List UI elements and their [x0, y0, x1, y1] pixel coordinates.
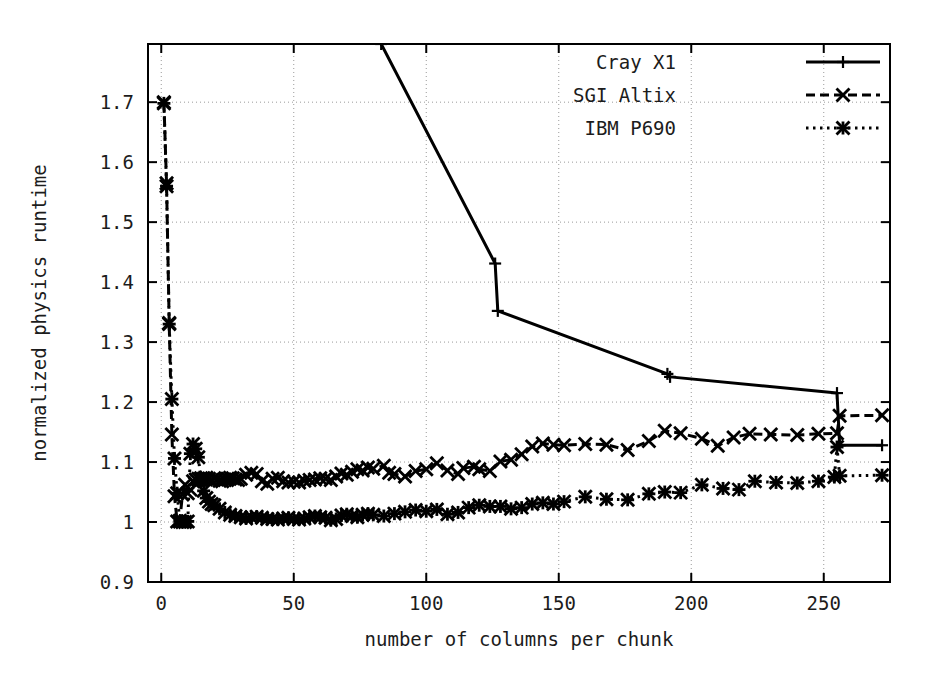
x-tick-label: 0: [156, 592, 167, 614]
data-point-marker: [833, 469, 846, 482]
y-tick-label: 1.2: [100, 391, 134, 413]
data-point-marker: [770, 476, 783, 489]
data-point-marker: [171, 487, 184, 500]
data-point-marker: [160, 180, 173, 193]
x-tick-label: 250: [807, 592, 841, 614]
legend-label-ibm-p690: IBM P690: [584, 117, 676, 139]
data-point-marker: [732, 483, 745, 496]
chart-background: [0, 0, 932, 691]
data-point-marker: [558, 495, 571, 508]
y-tick-label: 1.4: [100, 271, 134, 293]
chart-figure: 0.911.11.21.31.41.51.61.7050100150200250…: [0, 0, 932, 691]
x-tick-label: 100: [409, 592, 443, 614]
data-point-marker: [642, 487, 655, 500]
y-tick-label: 0.9: [100, 571, 134, 593]
data-point-marker: [168, 452, 181, 465]
data-point-marker: [658, 486, 671, 499]
data-point-marker: [791, 477, 804, 490]
x-tick-label: 200: [674, 592, 708, 614]
data-point-marker: [579, 490, 592, 503]
data-point-marker: [163, 318, 176, 331]
data-point-marker: [157, 97, 170, 110]
data-point-marker: [181, 515, 194, 528]
data-point-marker: [674, 486, 687, 499]
legend-label-sgi-altix: SGI Altix: [573, 84, 676, 106]
y-tick-label: 1: [123, 511, 134, 533]
legend-label-cray-x1: Cray X1: [596, 51, 676, 73]
y-tick-label: 1.3: [100, 331, 134, 353]
data-point-marker: [812, 475, 825, 488]
y-tick-label: 1.5: [100, 211, 134, 233]
data-point-marker: [165, 393, 178, 406]
data-point-marker: [192, 451, 205, 464]
x-axis-title: number of columns per chunk: [365, 628, 674, 650]
x-tick-label: 50: [282, 592, 305, 614]
y-tick-label: 1.6: [100, 151, 134, 173]
y-tick-label: 1.7: [100, 91, 134, 113]
data-point-marker: [695, 478, 708, 491]
x-tick-label: 150: [542, 592, 576, 614]
chart-canvas: 0.911.11.21.31.41.51.61.7050100150200250…: [0, 0, 932, 691]
data-point-marker: [837, 122, 850, 135]
y-tick-label: 1.1: [100, 451, 134, 473]
data-point-marker: [195, 474, 208, 487]
data-point-marker: [831, 441, 844, 454]
data-point-marker: [600, 493, 613, 506]
data-point-marker: [717, 482, 730, 495]
data-point-marker: [621, 493, 634, 506]
data-point-marker: [748, 475, 761, 488]
data-point-marker: [876, 469, 889, 482]
y-axis-title: normalized physics runtime: [28, 164, 50, 461]
